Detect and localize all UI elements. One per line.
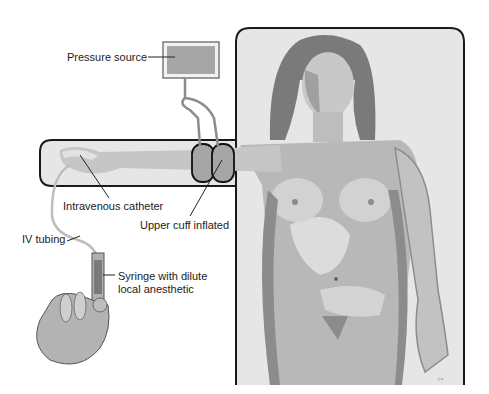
pressure-tube-2 xyxy=(185,98,218,146)
upper-cuff xyxy=(212,144,234,182)
label-iv-tubing: IV tubing xyxy=(22,233,65,246)
thumb xyxy=(93,298,107,312)
label-syringe-line1: Syringe with dilute xyxy=(118,270,207,283)
lower-cuff xyxy=(192,144,214,182)
finger-2 xyxy=(74,292,86,320)
syringe-fluid xyxy=(94,260,102,294)
breast-right xyxy=(339,178,391,222)
navel xyxy=(334,277,338,281)
label-pressure-source: Pressure source xyxy=(67,51,147,64)
label-intravenous-catheter: Intravenous catheter xyxy=(63,200,163,213)
pressure-tube-1 xyxy=(182,78,200,146)
artist-signature: j.s. xyxy=(437,376,444,381)
nipple-right xyxy=(368,199,374,205)
label-upper-cuff-inflated: Upper cuff inflated xyxy=(140,219,229,232)
neck-shape xyxy=(313,112,343,142)
finger-1 xyxy=(60,294,72,322)
label-syringe-line2: local anesthetic xyxy=(118,283,194,296)
nipple-left xyxy=(292,199,298,205)
pressure-source-screen xyxy=(167,46,215,74)
